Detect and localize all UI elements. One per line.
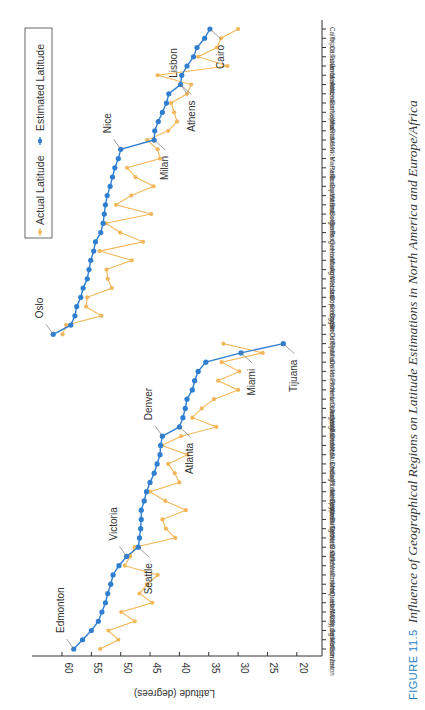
data-point xyxy=(184,397,189,402)
data-point xyxy=(236,27,240,31)
data-point xyxy=(88,258,93,263)
data-point xyxy=(112,165,117,170)
y-tick-label: 20 xyxy=(298,662,309,674)
annotation-label: Milan xyxy=(159,156,170,180)
y-tick-label: 35 xyxy=(210,662,221,674)
data-point xyxy=(152,471,157,476)
data-point xyxy=(172,110,176,114)
data-point xyxy=(139,517,144,522)
y-tick-label: 25 xyxy=(268,662,279,674)
data-point xyxy=(216,379,220,383)
annotation-leader xyxy=(138,547,149,557)
data-point xyxy=(196,369,201,374)
series-line xyxy=(63,29,239,334)
data-point xyxy=(164,527,168,531)
annotation-leader xyxy=(114,139,121,149)
annotation-label: Tijuana xyxy=(288,359,299,392)
data-point xyxy=(173,536,177,540)
data-point xyxy=(102,211,107,216)
data-point xyxy=(152,128,157,133)
data-point xyxy=(106,277,110,281)
y-tick-label: 60 xyxy=(63,662,74,674)
data-point xyxy=(72,313,77,318)
y-axis-title: Latitude (degrees) xyxy=(134,688,215,699)
data-point xyxy=(166,129,170,133)
data-point xyxy=(103,600,108,605)
annotation-label: Oslo xyxy=(34,297,45,318)
category-label: Marseilles xyxy=(329,157,336,185)
data-point xyxy=(169,101,173,105)
data-point xyxy=(157,452,162,457)
category-label: Cairo xyxy=(329,27,336,43)
data-point xyxy=(166,91,171,96)
annotation-label: Lisbon xyxy=(168,48,179,77)
data-point xyxy=(225,64,229,68)
data-point xyxy=(85,276,90,281)
data-point xyxy=(237,369,241,373)
data-point xyxy=(184,63,189,68)
y-tick-label: 30 xyxy=(239,662,250,674)
data-point xyxy=(116,638,120,642)
annotation-label: Victoria xyxy=(108,507,119,541)
data-point xyxy=(60,332,64,336)
data-point xyxy=(130,258,134,262)
legend-actual-label: Actual Latitude xyxy=(34,155,46,225)
data-point xyxy=(214,425,218,429)
data-point xyxy=(123,564,127,568)
data-point xyxy=(164,100,169,105)
data-point xyxy=(154,461,159,466)
data-point xyxy=(160,110,165,115)
data-point xyxy=(125,166,129,170)
data-point xyxy=(179,73,184,78)
data-point xyxy=(86,267,91,272)
data-point xyxy=(89,628,94,633)
annotation-leader xyxy=(46,324,53,334)
data-point xyxy=(200,406,204,410)
data-point xyxy=(184,508,188,512)
data-point xyxy=(236,388,240,392)
data-point xyxy=(158,443,163,448)
data-point xyxy=(97,249,101,253)
data-point xyxy=(191,54,196,59)
data-point xyxy=(156,73,160,77)
data-point xyxy=(80,637,85,642)
annotation-leader xyxy=(283,344,294,354)
data-point xyxy=(98,647,102,651)
legend: Estimated LatitudeActual Latitude xyxy=(25,28,52,238)
data-point xyxy=(189,82,193,86)
data-point xyxy=(98,230,103,235)
data-point xyxy=(74,304,79,309)
estimated-latitude-series xyxy=(51,26,286,651)
data-point xyxy=(99,609,104,614)
data-point xyxy=(220,360,224,364)
data-point xyxy=(151,184,155,188)
data-point xyxy=(110,174,115,179)
series-line xyxy=(53,29,210,334)
data-point xyxy=(91,248,96,253)
data-point xyxy=(105,591,110,596)
data-point xyxy=(114,203,118,207)
data-point xyxy=(100,221,105,226)
actual-latitude-series xyxy=(60,27,264,651)
data-point xyxy=(96,619,101,624)
data-point xyxy=(84,305,88,309)
data-point xyxy=(150,601,154,605)
data-point xyxy=(261,351,265,355)
data-point xyxy=(93,239,98,244)
data-point xyxy=(133,175,137,179)
data-point xyxy=(116,563,121,568)
data-point xyxy=(106,628,110,632)
data-point xyxy=(133,619,137,623)
y-tick-label: 40 xyxy=(180,662,191,674)
data-point xyxy=(202,36,207,41)
data-point xyxy=(192,378,197,383)
data-point xyxy=(68,323,73,328)
data-point xyxy=(166,462,170,466)
data-point xyxy=(78,295,83,300)
data-point xyxy=(144,489,149,494)
data-point xyxy=(129,193,133,197)
data-point xyxy=(190,387,195,392)
data-point xyxy=(105,267,109,271)
annotation-label: Nice xyxy=(102,113,113,133)
